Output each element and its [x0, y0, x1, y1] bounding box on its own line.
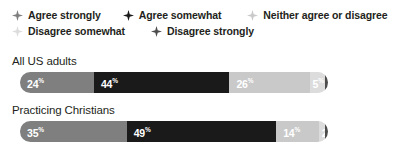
stacked-bar-track: 24%44%26%5%1% — [20, 72, 328, 93]
bar-segment-label: 5% — [310, 75, 324, 90]
bar-segment-label: 35% — [20, 124, 44, 139]
legend-item-agree-somewhat[interactable]: Agree somewhat — [123, 10, 222, 21]
bar-segment: 26% — [229, 72, 309, 93]
bar-group-practicing-christians: Practicing Christians 35%49%14%2%1% — [12, 103, 402, 142]
legend-item-disagree-strongly[interactable]: Disagree strongly — [151, 26, 254, 37]
stacked-bar-track: 35%49%14%2%1% — [20, 121, 328, 142]
bar-segment-label: 49% — [127, 124, 151, 139]
legend-row: Agree strongly Agree somewhat Neither ag… — [12, 7, 412, 23]
bar-segment: 44% — [94, 72, 230, 93]
bar-segment-label: 14% — [276, 124, 300, 139]
four-point-star-icon — [151, 26, 162, 37]
bar-title: All US adults — [12, 54, 402, 68]
bar-segment: 5% — [310, 72, 325, 93]
legend-item-disagree-somewhat[interactable]: Disagree somewhat — [12, 26, 125, 37]
four-point-star-icon — [12, 26, 23, 37]
bar-segment: 14% — [276, 121, 319, 142]
bar-segment-label: 1% — [325, 75, 328, 90]
legend-label: Agree somewhat — [139, 10, 222, 21]
four-point-star-icon — [123, 10, 134, 21]
bar-segment-label: 1% — [325, 124, 328, 139]
bar-segment-label: 26% — [229, 75, 253, 90]
bar-segment-label: 44% — [94, 75, 118, 90]
four-point-star-icon — [12, 10, 23, 21]
bar-segment: 49% — [127, 121, 276, 142]
bar-segment: 1% — [325, 72, 328, 93]
legend-item-neither-agree-or-disagree[interactable]: Neither agree or disagree — [247, 10, 387, 21]
bar-segment: 1% — [325, 121, 328, 142]
legend-label: Disagree strongly — [167, 26, 254, 37]
bar-segment-label: 24% — [20, 75, 44, 90]
legend-label: Disagree somewhat — [28, 26, 125, 37]
chart-legend: Agree strongly Agree somewhat Neither ag… — [12, 7, 412, 39]
bar-segment: 24% — [20, 72, 94, 93]
four-point-star-icon — [247, 10, 258, 21]
bar-segment: 35% — [20, 121, 127, 142]
bar-title: Practicing Christians — [12, 103, 402, 117]
legend-item-agree-strongly[interactable]: Agree strongly — [12, 10, 101, 21]
legend-row: Disagree somewhat Disagree strongly — [12, 23, 412, 39]
legend-label: Agree strongly — [28, 10, 101, 21]
legend-label: Neither agree or disagree — [263, 10, 387, 21]
bar-group-all-us-adults: All US adults 24%44%26%5%1% — [12, 54, 402, 93]
